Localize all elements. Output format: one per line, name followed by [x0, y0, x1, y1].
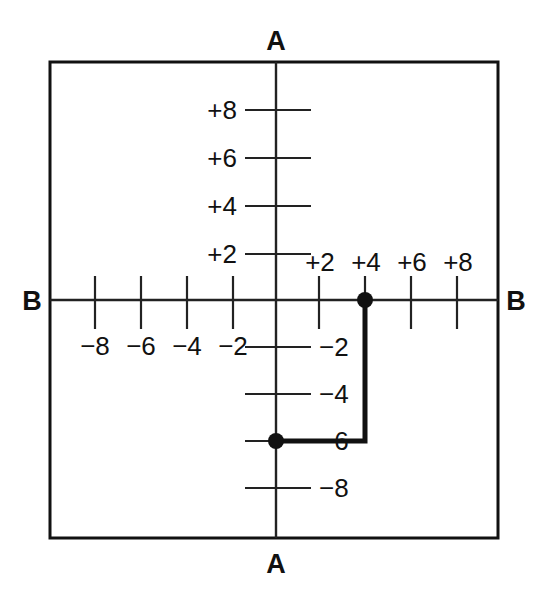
x-label-plus6: +6 [397, 247, 427, 277]
y-label-plus6: +6 [207, 143, 237, 173]
y-label-minus2: −2 [319, 332, 349, 362]
y-label-minus8: −8 [319, 473, 349, 503]
y-label-plus8: +8 [207, 95, 237, 125]
x-label-minus4: −4 [172, 331, 202, 361]
label-axis-a-bottom: A [266, 549, 286, 579]
y-label-plus4: +4 [207, 191, 237, 221]
x-label-plus4: +4 [351, 247, 381, 277]
diagram-canvas: A A B B −8 −6 −4 −2 +2 +4 +6 +8 +8 +6 +4… [0, 0, 548, 599]
data-point-y-minus6 [268, 433, 284, 449]
x-label-minus6: −6 [126, 331, 156, 361]
y-label-plus2: +2 [207, 239, 237, 269]
x-label-minus2: −2 [218, 331, 248, 361]
technical-diagram: A A B B −8 −6 −4 −2 +2 +4 +6 +8 +8 +6 +4… [0, 0, 548, 599]
x-label-plus8: +8 [443, 247, 473, 277]
label-axis-b-right: B [506, 286, 526, 316]
label-axis-b-left: B [22, 286, 42, 316]
connector-polyline [276, 300, 365, 441]
label-axis-a-top: A [266, 26, 286, 56]
x-label-minus8: −8 [80, 331, 110, 361]
y-label-minus6: −6 [319, 426, 349, 456]
x-label-plus2: +2 [305, 247, 335, 277]
data-point-x-plus4 [357, 292, 373, 308]
y-label-minus4: −4 [319, 379, 349, 409]
